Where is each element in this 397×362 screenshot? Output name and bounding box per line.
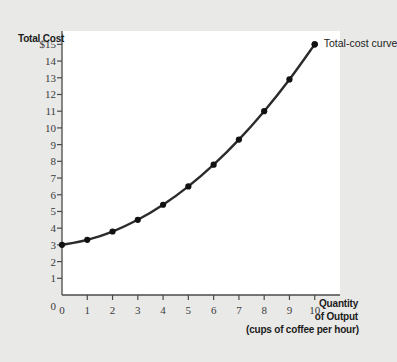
y-tick-label: 5 [18, 205, 56, 217]
y-tick-label: 12 [18, 88, 56, 100]
x-tick-label: 3 [135, 304, 141, 316]
data-point [84, 237, 90, 243]
x-axis-title-line-3: (cups of coffee per hour) [246, 323, 358, 336]
y-tick-label: 2 [18, 256, 56, 268]
x-tick-label: 5 [186, 304, 192, 316]
data-point [109, 228, 115, 234]
x-axis-title-line-2: of Output [246, 310, 358, 323]
chart-axes [62, 31, 340, 295]
data-point [236, 137, 242, 143]
x-axis-title-line-1: Quantity [246, 297, 358, 310]
data-point [185, 183, 191, 189]
x-tick-label: 0 [59, 304, 65, 316]
y-axis-title: Total Cost [18, 33, 64, 44]
y-tick-label: 6 [18, 189, 56, 201]
y-tick-label: 13 [18, 72, 56, 84]
data-point [160, 202, 166, 208]
y-tick-label: 14 [18, 55, 56, 67]
y-tick-label: 0 [18, 300, 56, 312]
x-tick-label: 1 [85, 304, 91, 316]
y-tick-label: 8 [18, 155, 56, 167]
x-axis-title: Quantity of Output (cups of coffee per h… [246, 297, 358, 336]
y-tick-label: 7 [18, 172, 56, 184]
y-tick-label: 11 [18, 105, 56, 117]
y-tick-label: 3 [18, 239, 56, 251]
y-tick-label: 4 [18, 222, 56, 234]
data-point [211, 162, 217, 168]
data-point [286, 76, 292, 82]
y-tick-label: 1 [18, 272, 56, 284]
y-tick-label: 10 [18, 122, 56, 134]
x-tick-label: 4 [160, 304, 166, 316]
data-point [59, 242, 65, 248]
curve-annotation-label: Total-cost curve [324, 37, 397, 49]
total-cost-curve [62, 44, 315, 245]
y-tick-label: 9 [18, 139, 56, 151]
data-point [261, 108, 267, 114]
x-tick-label: 7 [236, 304, 242, 316]
chart-tick-marks [57, 44, 315, 300]
x-tick-label: 6 [211, 304, 217, 316]
data-point [135, 217, 141, 223]
data-point-markers [59, 41, 318, 248]
x-tick-label: 2 [110, 304, 116, 316]
annotation-endpoint-dot [312, 41, 318, 47]
